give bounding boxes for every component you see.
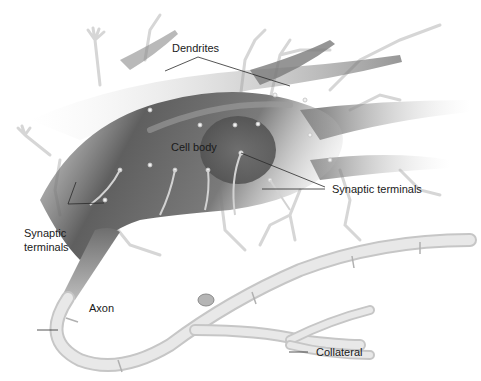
label-dendrites: Dendrites [172, 41, 219, 55]
axon [56, 240, 470, 365]
axon-cut-section [198, 294, 214, 306]
label-collateral: Collateral [316, 345, 362, 359]
label-cell-body: Cell body [171, 140, 217, 154]
label-synaptic-left-line1: Synaptic [24, 226, 66, 240]
label-synaptic-left-line2: terminals [24, 240, 69, 254]
label-axon: Axon [89, 301, 114, 315]
neuron-diagram: Dendrites Cell body Synaptic terminals S… [0, 0, 481, 381]
label-synaptic-terminals-right: Synaptic terminals [332, 182, 422, 196]
